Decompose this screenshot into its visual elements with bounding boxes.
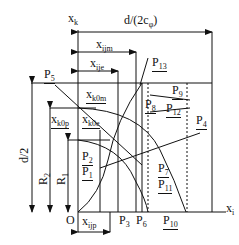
- point-P9: P9: [172, 84, 183, 100]
- xi-axis-label: xi: [226, 202, 234, 217]
- point-P12: P12: [166, 102, 181, 118]
- point-P3: P3: [119, 214, 130, 229]
- origin-label: O: [66, 214, 75, 226]
- R1-label: R1: [55, 173, 70, 185]
- d2-label: d/2: [18, 148, 30, 163]
- xije-label: xije: [90, 57, 104, 72]
- point-P6: P6: [136, 214, 147, 229]
- point-P7: P7: [158, 162, 169, 178]
- R2-label: R2: [37, 173, 52, 185]
- point-P10: P10: [163, 214, 178, 230]
- point-P8: P8: [145, 98, 156, 114]
- xk0e-label: xk0e: [82, 113, 100, 129]
- point-P2: P2: [82, 150, 93, 166]
- point-P5: P5: [44, 68, 55, 84]
- xk0p-label: xk0p: [51, 113, 69, 129]
- point-P11: P11: [158, 178, 172, 194]
- d-2c-label: d/(2cφ): [124, 14, 157, 29]
- point-P4: P4: [196, 114, 207, 130]
- xijp-label: xijp: [82, 215, 96, 230]
- xk0m-label: xk0m: [86, 88, 106, 104]
- point-P13: P13: [152, 56, 167, 72]
- diagram: xk xi O d/(2cφ) xijm xije xijp d/2 R2 R1…: [0, 0, 239, 245]
- xk-axis-label: xk: [68, 12, 78, 27]
- xijm-label: xijm: [96, 38, 113, 53]
- point-P1: P1: [82, 165, 93, 181]
